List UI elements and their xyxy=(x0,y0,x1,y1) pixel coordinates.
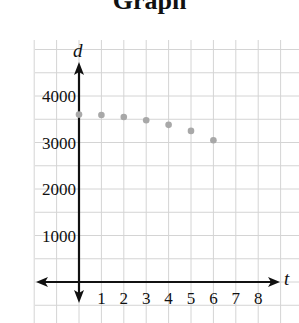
data-point xyxy=(188,128,195,135)
x-axis-label: t xyxy=(284,268,290,289)
y-tick-label: 3000 xyxy=(42,134,76,153)
x-tick-label: 7 xyxy=(232,289,241,308)
data-point xyxy=(76,111,83,118)
x-tick-label: 3 xyxy=(142,289,151,308)
data-point xyxy=(121,114,128,121)
plot-area: td 123456781000200030004000 xyxy=(0,0,299,323)
x-tick-label: 6 xyxy=(209,289,218,308)
data-point xyxy=(165,122,172,129)
x-tick-label: 5 xyxy=(187,289,196,308)
x-tick-label: 8 xyxy=(254,289,263,308)
y-axis-label: d xyxy=(73,40,83,61)
tick-labels: 123456781000200030004000 xyxy=(42,87,262,308)
data-point xyxy=(98,112,105,119)
y-tick-label: 1000 xyxy=(42,227,76,246)
x-tick-label: 2 xyxy=(120,289,129,308)
data-point xyxy=(143,117,150,124)
x-tick-label: 4 xyxy=(164,289,173,308)
y-tick-label: 2000 xyxy=(42,180,76,199)
x-tick-label: 1 xyxy=(97,289,106,308)
data-point xyxy=(210,137,217,144)
axes: td xyxy=(36,40,290,303)
y-tick-label: 4000 xyxy=(42,87,76,106)
